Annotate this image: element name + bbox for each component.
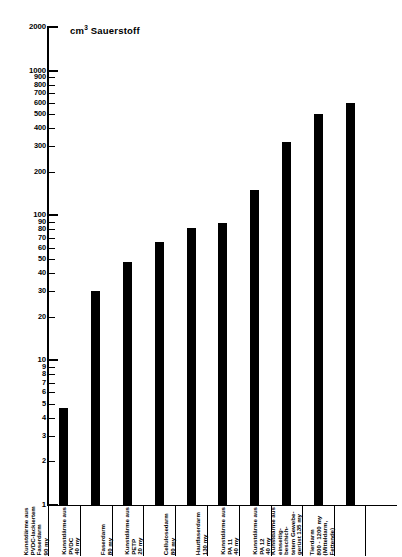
y-axis-tick-label: 7	[42, 379, 46, 386]
y-axis-tick	[49, 404, 55, 405]
category-label: Cellulosedarm 80 my	[163, 505, 176, 556]
y-axis-tick	[49, 418, 55, 419]
y-axis-tick-label: 2000	[29, 23, 46, 30]
y-axis-tick	[49, 248, 55, 249]
oxygen-permeability-bar-chart: cm3 Sauerstoff 2000100090080070060050040…	[0, 0, 402, 557]
y-axis-tick	[49, 383, 55, 384]
y-axis-tick-label: 500	[34, 110, 46, 117]
bar	[218, 223, 227, 505]
bar	[155, 242, 164, 505]
category-label: Kunstdärme aus PVDC 40 my	[61, 505, 81, 556]
y-axis-tick	[49, 392, 55, 393]
category-label: Kunstdärme aus einseitig-beschich- tetem…	[270, 505, 303, 556]
y-axis-tick-label: 40	[38, 269, 46, 276]
y-axis-tick	[49, 93, 55, 94]
category-label: Kunstdärme aus PVDC-lackiertem Faserdarm…	[23, 505, 49, 556]
category-label: Tierdarm 800 - 1200 my (Mitteldarm, Fett…	[309, 505, 335, 556]
y-axis-tick-label: 4	[42, 414, 46, 421]
y-axis-tick	[49, 238, 55, 239]
y-axis-tick	[49, 367, 55, 368]
y-axis-tick-label: 30	[38, 287, 46, 294]
y-axis-tick	[49, 146, 55, 147]
y-axis-tick	[49, 359, 58, 361]
axis-title-unit: cm	[70, 25, 84, 36]
y-axis-tick	[49, 26, 58, 28]
y-axis-tick	[49, 222, 55, 223]
y-axis-tick	[49, 461, 55, 462]
y-axis-tick	[49, 77, 55, 78]
y-axis-tick-label: 200	[34, 168, 46, 175]
y-axis-tick-label: 800	[34, 81, 46, 88]
y-axis-tick	[49, 85, 55, 86]
y-axis-line	[47, 26, 49, 506]
y-axis-tick	[49, 172, 55, 173]
y-axis-tick	[49, 317, 55, 318]
y-axis-tick	[49, 259, 55, 260]
y-axis-tick	[49, 114, 55, 115]
y-axis-tick-label: 5	[42, 400, 46, 407]
y-axis-tick	[49, 291, 55, 292]
y-axis-tick	[49, 214, 58, 216]
y-axis-tick	[49, 70, 58, 72]
y-axis-tick-label: 50	[38, 255, 46, 262]
y-axis-tick-label: 300	[34, 142, 46, 149]
y-axis-tick	[49, 128, 55, 129]
bar	[123, 262, 132, 505]
y-axis-tick-label: 80	[38, 225, 46, 232]
scan-artifact-rule	[0, 0, 402, 3]
bar	[250, 190, 259, 505]
y-axis-tick	[49, 229, 55, 230]
y-axis-tick-label: 8	[42, 370, 46, 377]
y-axis-tick	[49, 273, 55, 274]
y-axis-tick-label: 70	[38, 234, 46, 241]
bar	[187, 228, 196, 505]
axis-title: cm3 Sauerstoff	[70, 25, 140, 36]
y-axis-tick	[49, 374, 55, 375]
bar	[314, 114, 323, 505]
bar	[346, 103, 355, 505]
y-axis-tick-label: 600	[34, 99, 46, 106]
category-label: Kunstdärme aus PETP 20 my	[125, 505, 145, 556]
y-axis-tick	[49, 436, 55, 437]
y-axis-tick-label: 400	[34, 124, 46, 131]
y-axis-tick-label: 20	[38, 313, 46, 320]
category-label: Hautfaserdarm 130 my	[195, 505, 208, 556]
axis-title-text: Sauerstoff	[88, 25, 140, 36]
y-axis-tick-label: 3	[42, 432, 46, 439]
y-axis-tick-label: 2	[42, 457, 46, 464]
category-label: Faserdarm 80 my	[99, 505, 112, 556]
bar	[59, 408, 68, 505]
y-axis-tick-label: 6	[42, 388, 46, 395]
bar	[282, 142, 291, 505]
y-axis-tick	[49, 103, 55, 104]
y-axis-tick-label: 60	[38, 244, 46, 251]
category-label: Kunstdärme aus PA 11 40 my	[220, 505, 240, 556]
bar	[91, 291, 100, 505]
y-axis-tick-label: 700	[34, 89, 46, 96]
category-cell: Tierdarm 800 - 1200 my (Mitteldarm, Fett…	[334, 506, 366, 556]
